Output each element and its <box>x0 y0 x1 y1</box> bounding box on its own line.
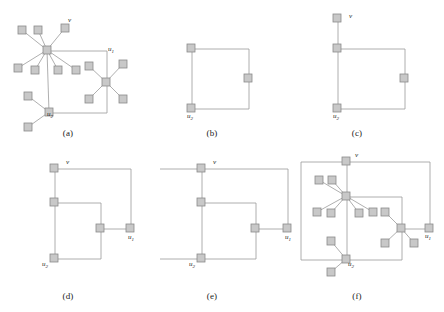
graph-node-node-top-left <box>333 44 341 52</box>
graph-node-leaf-v-4 <box>14 64 22 72</box>
graph-node-leaf-v-7 <box>72 66 80 74</box>
graph-d: vu1u2 <box>18 152 168 287</box>
graph-node-hub-u1 <box>102 78 110 86</box>
graph-node-leaf-v-6 <box>54 66 62 74</box>
vertex-label-subscript: 2 <box>337 116 340 121</box>
vertex-label-subscript: 2 <box>352 264 355 269</box>
vertex-label-u2: u2 <box>187 112 194 121</box>
graph-a: vu1u2 <box>2 6 152 141</box>
edge-path <box>202 169 288 229</box>
vertex-label-v: v <box>355 151 359 159</box>
graph-node-node-right <box>400 74 408 82</box>
graph-node-hub-v <box>43 46 51 54</box>
graph-node-node-mid-left <box>197 198 205 206</box>
vertex-label-u1: u1 <box>108 45 114 54</box>
edge-path <box>338 49 405 79</box>
graph-b: u2 <box>160 6 310 141</box>
graph-node-node-v <box>197 164 205 172</box>
edge-path <box>192 49 249 79</box>
graph-node-leaf-u2-2 <box>24 123 32 131</box>
panel-caption-c: (c) <box>337 128 377 138</box>
graph-node-leaf-u1-2 <box>119 60 127 68</box>
graph-node-leaf-u1-4 <box>119 95 127 103</box>
vertex-label-u2: u2 <box>42 260 49 269</box>
vertex-label-subscript: 1 <box>289 237 292 242</box>
graph-node-leaf-v-4 <box>327 209 335 217</box>
graph-node-leaf-v-2 <box>34 26 42 34</box>
panel-e: vu1u2 <box>158 152 308 287</box>
vertex-label-u1: u1 <box>128 233 134 242</box>
graph-node-node-u2 <box>197 254 205 262</box>
graph-node-leaf-v-3 <box>313 208 321 216</box>
panel-c: vu2 <box>300 6 444 141</box>
graph-node-leaf-v-5 <box>355 209 363 217</box>
edge-path <box>55 229 101 259</box>
vertex-label-u2: u2 <box>189 260 196 269</box>
graph-node-leaf-u2-1 <box>327 237 335 245</box>
graph-node-node-bottom-left <box>333 104 341 112</box>
vertex-label-u2: u2 <box>348 260 355 269</box>
vertex-label-v: v <box>66 158 70 166</box>
graph-node-hub-v <box>342 192 350 200</box>
edge-path <box>338 79 405 109</box>
graph-node-node-top-left <box>187 44 195 52</box>
graph-node-leaf-v-6 <box>369 208 377 216</box>
edge-path <box>202 203 256 229</box>
graph-f: vu1u2 <box>297 150 444 285</box>
edge-path <box>347 162 430 229</box>
graph-node-leaf-u1-2 <box>381 239 389 247</box>
panel-b: u2 <box>160 6 310 141</box>
graph-node-node-u1 <box>425 224 433 232</box>
panel-caption-b: (b) <box>192 128 232 138</box>
panel-d: vu1u2 <box>18 152 168 287</box>
graph-node-node-u2 <box>50 254 58 262</box>
figure-container: vu1u2(a)u2(b)vu2(c)vu1u2(d)vu1u2(e)vu1u2… <box>0 0 444 312</box>
graph-node-leaf-v-1 <box>18 26 26 34</box>
graph-node-node-bottom-left <box>187 104 195 112</box>
vertex-label-v: v <box>68 16 72 24</box>
panel-caption-d: (d) <box>48 291 88 301</box>
panel-caption-f: (f) <box>337 291 377 301</box>
vertex-label-v: v <box>213 158 217 166</box>
panel-a: vu1u2 <box>2 6 152 141</box>
vertex-label-subscript: 1 <box>132 237 135 242</box>
vertex-label-subscript: 1 <box>112 49 115 54</box>
edge-path <box>55 169 131 229</box>
graph-e: vu1u2 <box>158 152 308 287</box>
graph-node-leaf-u1-3 <box>85 95 93 103</box>
graph-node-node-u1 <box>283 224 291 232</box>
graph-node-leaf-v-1 <box>315 176 323 184</box>
graph-node-leaf-v-2 <box>328 176 336 184</box>
graph-node-leaf-u2-2 <box>327 268 335 276</box>
graph-node-node-v <box>333 14 341 22</box>
vertex-label-u1: u1 <box>285 233 291 242</box>
vertex-label-subscript: 2 <box>46 264 49 269</box>
vertex-label-subscript: 1 <box>429 236 432 241</box>
edge-path <box>347 229 402 260</box>
graph-node-node-mid-left <box>50 198 58 206</box>
graph-node-node-v <box>342 157 350 165</box>
vertex-label-u1: u1 <box>425 232 431 241</box>
graph-node-leaf-v-3 <box>61 24 69 32</box>
graph-node-node-u1 <box>126 224 134 232</box>
graph-node-hub-u1 <box>397 224 405 232</box>
vertex-label-subscript: 2 <box>191 116 194 121</box>
edge-path <box>202 229 256 259</box>
graph-node-node-v <box>50 164 58 172</box>
vertex-label-v: v <box>349 12 353 20</box>
panel-caption-a: (a) <box>48 128 88 138</box>
graph-node-leaf-u1-3 <box>410 239 418 247</box>
graph-node-node-center <box>96 224 104 232</box>
edge-path <box>50 83 107 113</box>
vertex-label-u2: u2 <box>333 112 340 121</box>
edge-path <box>192 79 249 109</box>
graph-node-leaf-v-5 <box>31 66 39 74</box>
panel-f: vu1u2 <box>297 150 444 285</box>
edge-path <box>55 203 101 229</box>
graph-node-leaf-u2-1 <box>24 92 32 100</box>
graph-node-leaf-u1-1 <box>381 208 389 216</box>
edge-spoke <box>47 50 49 112</box>
panel-caption-e: (e) <box>192 291 232 301</box>
graph-c: vu2 <box>300 6 444 141</box>
graph-node-node-center <box>251 224 259 232</box>
